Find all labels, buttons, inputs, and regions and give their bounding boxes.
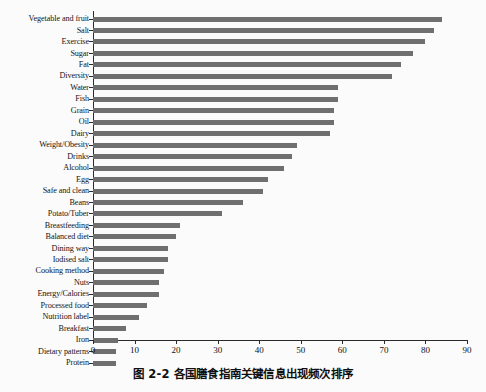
category-label: Iodised salt xyxy=(53,256,89,264)
bar xyxy=(93,108,334,113)
category-label: Salt xyxy=(77,27,89,35)
x-axis-tick-label: 50 xyxy=(288,345,314,355)
x-axis-tick xyxy=(384,340,385,344)
y-axis-tick xyxy=(89,168,93,169)
category-label: Balanced diet xyxy=(46,233,89,241)
y-axis-tick xyxy=(89,99,93,100)
x-axis-line xyxy=(93,340,467,341)
bar xyxy=(93,120,334,125)
y-axis-tick xyxy=(89,145,93,146)
category-label: Nuts xyxy=(74,279,89,287)
bar xyxy=(93,200,243,205)
bar xyxy=(93,39,425,44)
y-axis-tick xyxy=(89,110,93,111)
y-axis-tick xyxy=(89,305,93,306)
category-label: Grain xyxy=(71,107,89,115)
category-label: Sugar xyxy=(70,50,89,58)
x-axis-tick-label: 90 xyxy=(454,345,480,355)
bar xyxy=(93,131,330,136)
y-axis-tick xyxy=(89,53,93,54)
category-label: Water xyxy=(70,84,89,92)
category-label: Exercise xyxy=(62,38,89,46)
bar xyxy=(93,154,292,159)
x-axis-tick xyxy=(301,340,302,344)
x-axis-tick xyxy=(425,340,426,344)
category-label: Beans xyxy=(69,199,89,207)
category-label: Nutrition label xyxy=(43,313,89,321)
category-label: Dining way xyxy=(52,245,89,253)
bar xyxy=(93,234,176,239)
y-axis-tick xyxy=(89,122,93,123)
x-axis-tick-label: 20 xyxy=(163,345,189,355)
y-axis-tick xyxy=(89,248,93,249)
category-label: Fish xyxy=(75,95,89,103)
category-label: Dairy xyxy=(71,130,89,138)
x-axis-tick xyxy=(135,340,136,344)
x-axis-tick-label: 70 xyxy=(371,345,397,355)
y-axis-tick xyxy=(89,259,93,260)
bar xyxy=(93,326,126,331)
bar xyxy=(93,280,159,285)
x-axis-tick-label: 60 xyxy=(329,345,355,355)
figure-container: Vegetable and fruitSaltExerciseSugarFatD… xyxy=(0,0,486,392)
y-axis-tick xyxy=(89,191,93,192)
bar xyxy=(93,223,180,228)
bar xyxy=(93,211,222,216)
bar xyxy=(93,189,263,194)
bar xyxy=(93,28,434,33)
bar xyxy=(93,166,284,171)
category-label: Alcohol xyxy=(63,164,89,172)
y-axis-tick xyxy=(89,282,93,283)
x-axis-tick-label: 80 xyxy=(412,345,438,355)
y-axis-tick xyxy=(89,202,93,203)
category-label: Egg xyxy=(76,176,89,184)
y-axis-tick xyxy=(89,294,93,295)
x-axis-tick xyxy=(342,340,343,344)
category-label: Cooking method xyxy=(36,267,89,275)
y-axis-tick xyxy=(89,41,93,42)
bar xyxy=(93,85,338,90)
y-axis-tick xyxy=(89,213,93,214)
y-axis-tick xyxy=(89,225,93,226)
bar xyxy=(93,143,297,148)
bar xyxy=(93,177,268,182)
x-axis-tick xyxy=(218,340,219,344)
category-label: Breakfast xyxy=(59,325,89,333)
x-axis-tick xyxy=(259,340,260,344)
x-axis-tick-label: 0 xyxy=(80,345,106,355)
y-axis-tick xyxy=(89,30,93,31)
y-axis-tick xyxy=(89,328,93,329)
category-label: Fat xyxy=(79,61,89,69)
x-axis-tick-label: 40 xyxy=(246,345,272,355)
category-label: Energy/Calories xyxy=(37,290,89,298)
bar xyxy=(93,97,338,102)
x-axis-tick xyxy=(93,340,94,344)
y-axis-tick xyxy=(89,133,93,134)
category-label: Weight/Obesity xyxy=(39,141,89,149)
x-axis-tick-label: 30 xyxy=(205,345,231,355)
y-axis-tick xyxy=(89,76,93,77)
y-axis-tick xyxy=(89,19,93,20)
y-axis-tick xyxy=(89,317,93,318)
bar xyxy=(93,246,168,251)
category-label: Vegetable and fruit xyxy=(29,15,89,23)
x-axis-tick-label: 10 xyxy=(122,345,148,355)
y-axis-tick xyxy=(89,156,93,157)
bar xyxy=(93,269,164,274)
x-axis-tick xyxy=(176,340,177,344)
bar xyxy=(93,292,159,297)
bar xyxy=(93,315,139,320)
x-axis-tick xyxy=(467,340,468,344)
bar xyxy=(93,51,413,56)
y-axis-tick xyxy=(89,87,93,88)
bar xyxy=(93,74,392,79)
y-axis-tick xyxy=(89,236,93,237)
figure-caption: 图 2-2 各国膳食指南关键信息出现频次排序 xyxy=(0,367,486,381)
y-axis-tick xyxy=(89,363,93,364)
bar xyxy=(93,62,401,67)
bar xyxy=(93,257,168,262)
bar xyxy=(93,17,442,22)
bar xyxy=(93,338,118,343)
category-label: Drinks xyxy=(67,153,89,161)
y-axis-tick xyxy=(89,64,93,65)
